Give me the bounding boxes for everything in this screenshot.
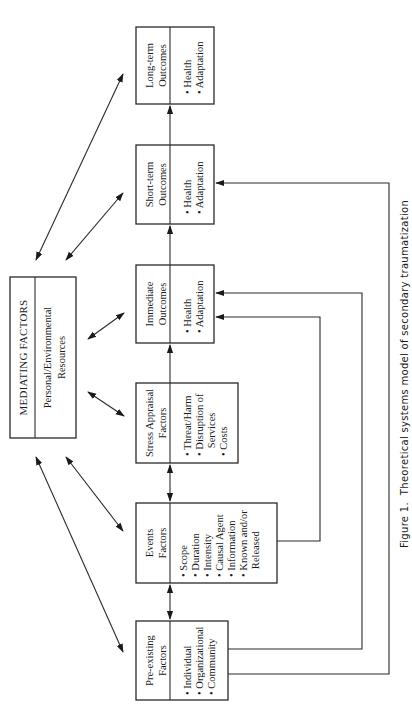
arrow-mediating-events <box>66 457 123 531</box>
mediating-title: MEDIATING FACTORS <box>17 300 29 416</box>
arrow-mediating-long-term <box>36 74 123 260</box>
long-term-outcomes-box: Long-term Outcomes • Health • Adaptation <box>136 27 214 104</box>
box-item: • Duration <box>190 533 201 577</box>
box-item: • Disruption of <box>194 393 205 456</box>
arrow-mediating-preexisting <box>36 457 123 652</box>
box-item: • Information <box>226 520 237 577</box>
box-item: • Individual <box>182 645 193 695</box>
box-title-line1: Immediate <box>144 281 155 326</box>
immediate-outcomes-box: Immediate Outcomes • Health • Adaptation <box>136 265 214 343</box>
box-item: • Known and/or <box>238 510 249 577</box>
box-item: • Adaptation <box>194 161 205 214</box>
feedback-preexisting-to-immediate <box>216 293 362 649</box>
mediating-factors-box: MEDIATING FACTORS Personal/Environmental… <box>10 277 76 438</box>
stress-appraisal-factors-box: Stress Appraisal Factors • Threat/Harm •… <box>136 383 238 463</box>
box-title-line1: Long-term <box>144 43 155 88</box>
box-item: • Costs <box>218 426 229 456</box>
box-item: • Adaptation <box>194 41 205 94</box>
box-title-line2: Outcomes <box>157 163 168 206</box>
events-factors-box: Events Factors • Scope • Duration • Inte… <box>136 503 277 583</box>
box-item: • Causal Agent <box>214 514 225 577</box>
box-item: • Scope <box>178 545 189 577</box>
box-item: • Health <box>182 298 193 333</box>
mediating-subtitle-line1: Personal/Environmental <box>42 307 53 409</box>
box-item: Released <box>250 530 261 577</box>
systems-model-diagram: MEDIATING FACTORS Personal/Environmental… <box>0 0 412 706</box>
box-title-line1: Short-term <box>144 162 155 208</box>
arrow-mediating-stress <box>88 392 124 416</box>
box-title-line2: Factors <box>157 528 168 559</box>
arrow-mediating-short-term <box>66 193 123 260</box>
short-term-outcomes-box: Short-term Outcomes • Health • Adaptatio… <box>136 145 214 224</box>
mediating-subtitle-line2: Resources <box>56 336 67 379</box>
figure-caption: Figure 1. Theoretical systems model of s… <box>399 200 410 548</box>
arrow-mediating-immediate <box>88 313 124 339</box>
box-item: • Intensity <box>202 533 213 577</box>
preexisting-factors-box: Pre-existing Factors • Individual • Orga… <box>136 621 228 700</box>
box-title-line2: Outcomes <box>157 283 168 326</box>
box-item: • Organizational <box>194 626 205 695</box>
feedback-preexisting-to-short-term <box>216 183 389 674</box>
box-title-line2: Outcomes <box>157 44 168 87</box>
box-title-line1: Pre-existing <box>144 634 155 685</box>
box-title-line1: Stress Appraisal <box>144 389 155 457</box>
box-item: Services <box>206 413 217 456</box>
box-item: • Threat/Harm <box>182 396 193 456</box>
box-item: • Health <box>182 179 193 214</box>
box-title-line1: Events <box>144 529 155 558</box>
box-item: • Health <box>182 59 193 94</box>
box-title-line2: Factors <box>157 645 168 676</box>
box-item: • Adaptation <box>194 280 205 333</box>
box-title-line2: Factors <box>157 408 168 439</box>
box-item: • Community <box>206 638 217 695</box>
